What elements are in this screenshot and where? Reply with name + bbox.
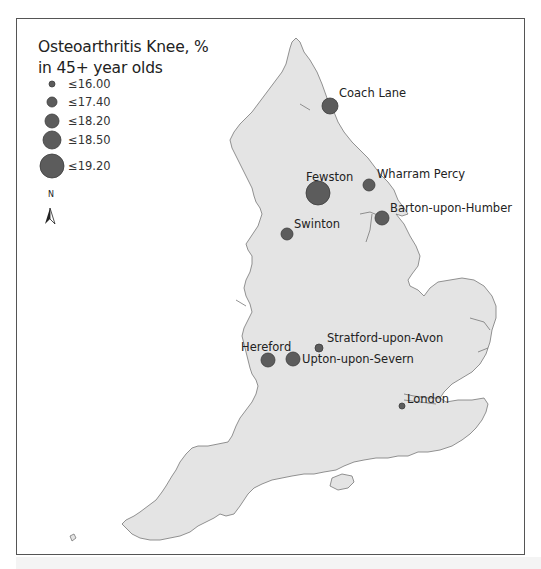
marker-upton-upon-severn (286, 352, 300, 366)
place-label: Stratford-upon-Avon (327, 331, 443, 345)
place-label: Fewston (306, 170, 353, 184)
legend-symbols (40, 81, 64, 178)
marker-hereford (261, 353, 275, 367)
place-label: Hereford (241, 340, 291, 354)
place-label: Coach Lane (339, 86, 406, 100)
legend-title: Osteoarthritis Knee, % in 45+ year olds (38, 37, 208, 79)
place-label: Upton-upon-Severn (302, 352, 414, 366)
legend-label: ≤17.40 (68, 95, 111, 109)
north-label: N (48, 190, 54, 199)
marker-london (399, 403, 405, 409)
isle-of-wight (330, 474, 354, 490)
legend-label: ≤16.00 (68, 77, 111, 91)
marker-coach-lane (322, 98, 338, 114)
legend-label: ≤18.50 (68, 133, 111, 147)
england-landmass (122, 38, 496, 540)
north-arrow: N (43, 190, 61, 230)
marker-fewston (306, 181, 330, 205)
place-label: Swinton (294, 217, 340, 231)
legend-label: ≤19.20 (68, 159, 111, 173)
isles-of-scilly (70, 534, 76, 541)
place-label: London (407, 392, 449, 406)
marker-barton-upon-humber (375, 211, 389, 225)
marker-stratford-upon-avon (315, 344, 323, 352)
legend-label: ≤18.20 (68, 114, 111, 128)
place-label: Barton-upon-Humber (390, 201, 512, 215)
legend-title-line2: in 45+ year olds (38, 58, 208, 79)
legend-title-line1: Osteoarthritis Knee, % (38, 37, 208, 58)
marker-swinton (281, 228, 293, 240)
place-label: Wharram Percy (377, 167, 465, 181)
marker-wharram-percy (363, 179, 375, 191)
